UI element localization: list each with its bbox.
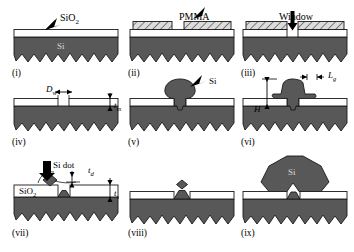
figure-canvas: SiO2 Si (i) PMMA (ii) xyxy=(0,0,354,252)
panel-iii-graphic xyxy=(243,28,347,68)
panel-label-i: (i) xyxy=(12,68,21,78)
oxide-layer-ix-right xyxy=(300,192,347,200)
panel-iv-graphic xyxy=(14,97,118,137)
si-dot-diamond-viii xyxy=(177,180,188,189)
oxide-layer-viii-right xyxy=(190,192,234,200)
h-dimension-label: H xyxy=(254,104,261,114)
si-plug-peak-ix xyxy=(287,192,300,199)
panel-vi-graphic xyxy=(243,97,347,137)
dw-dimension-label: Dw xyxy=(46,84,57,96)
si-dot-callout-label: Si dot xyxy=(53,160,74,170)
pmma-callout-label: PMMA xyxy=(179,11,210,22)
pmma-block-left-iii xyxy=(246,22,287,30)
oxide-layer-iii-right xyxy=(298,30,347,38)
sio2-callout-label: SiO2 xyxy=(60,12,79,26)
si-substrate-iii xyxy=(243,37,347,62)
oxide-layer-vi-right xyxy=(299,99,347,107)
panel-label-vi: (vi) xyxy=(241,137,255,147)
si-dot-plug-vii xyxy=(58,191,70,198)
panel-label-ii: (ii) xyxy=(128,68,140,78)
pmma-block-right xyxy=(184,22,231,30)
oxide-layer-ix-left xyxy=(243,192,287,200)
si-substrate-ii xyxy=(130,37,234,62)
panel-label-vii: (vii) xyxy=(12,228,28,238)
si-blob-callout-label: Si xyxy=(209,76,217,86)
window-callout-label: Window xyxy=(279,11,313,22)
oxide-layer-vi-left xyxy=(243,99,287,107)
si-plug-peak-viii xyxy=(174,191,190,200)
oxide-layer-i xyxy=(14,30,118,38)
si-label-panel-i: Si xyxy=(57,41,65,51)
oxide-layer-v-right xyxy=(186,99,234,107)
oxide-layer-v-left xyxy=(130,99,174,107)
oxide-layer-iv-left xyxy=(14,99,58,107)
oxide-layer-viii-left xyxy=(130,192,174,200)
panel-ix-graphic xyxy=(243,190,347,230)
si-substrate-viii xyxy=(130,199,234,224)
sio2-layer-label-vii: SiO2 xyxy=(19,186,36,198)
tm-dimension-label: tm xyxy=(114,100,121,112)
panel-label-iv: (iv) xyxy=(12,137,26,147)
oxide-layer-iv-right xyxy=(69,99,118,107)
panel-v-graphic xyxy=(130,97,234,137)
panel-i-graphic xyxy=(14,28,118,68)
lg-dimension-label: Lg xyxy=(328,70,336,82)
si-blob-arrow-icon xyxy=(190,75,207,87)
oxide-layer-iii-left xyxy=(243,30,287,38)
panel-label-ix: (ix) xyxy=(241,228,255,238)
panel-ii-graphic xyxy=(130,28,234,68)
panel-label-viii: (viii) xyxy=(128,228,147,238)
si-substrate-iv xyxy=(14,106,118,131)
td-dimension-label: td xyxy=(88,165,94,177)
panel-label-iii: (iii) xyxy=(241,68,255,78)
panel-label-v: (v) xyxy=(128,137,139,147)
pmma-block-right-iii xyxy=(298,22,344,30)
si-crystal-label-ix: Si xyxy=(288,167,296,177)
oxide-layer-vii-right xyxy=(70,185,118,197)
pmma-block-left xyxy=(133,22,172,30)
si-substrate-vii xyxy=(14,197,118,221)
ts-dimension-label: ts xyxy=(114,188,119,200)
si-substrate-ix xyxy=(243,199,347,224)
oxide-layer-ii xyxy=(130,30,234,38)
si-substrate-i xyxy=(14,37,118,62)
panel-viii-graphic xyxy=(130,190,234,230)
